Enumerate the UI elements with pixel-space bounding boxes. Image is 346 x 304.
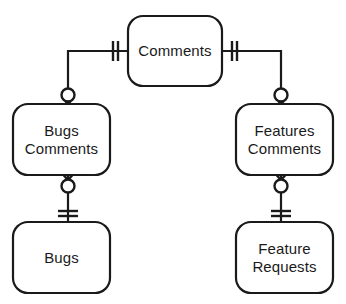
cardinality-zero-circle — [275, 89, 288, 102]
er-diagram-canvas: Comments Bugs Comments Features Comments… — [0, 0, 346, 304]
entity-box-comments[interactable] — [128, 16, 222, 86]
diagram-svg — [0, 0, 346, 304]
cardinality-zero-circle — [275, 180, 288, 193]
relationship-features-comments-to-feature-requests — [271, 169, 291, 222]
entity-box-bugs-comments[interactable] — [13, 104, 110, 175]
relationship-comments-to-features-comments — [222, 41, 291, 112]
relationship-bugs-comments-to-bugs — [58, 169, 78, 222]
entity-box-feature-requests[interactable] — [236, 222, 333, 293]
relationship-comments-to-bugs-comments — [58, 41, 128, 112]
cardinality-zero-circle — [62, 180, 75, 193]
entity-box-features-comments[interactable] — [236, 104, 333, 175]
cardinality-zero-circle — [62, 89, 75, 102]
entity-box-bugs[interactable] — [13, 222, 110, 293]
